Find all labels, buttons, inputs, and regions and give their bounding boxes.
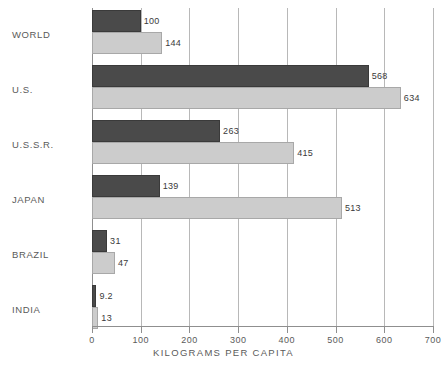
gridline-700 xyxy=(433,8,434,326)
tick-label-700: 700 xyxy=(425,335,442,345)
tick-label-200: 200 xyxy=(181,335,198,345)
gridline-300 xyxy=(238,8,239,326)
bar-value-label: 31 xyxy=(110,237,121,246)
bar-value-label: 47 xyxy=(118,259,129,268)
category-label-world: WORLD xyxy=(12,29,88,40)
bar-value-label: 100 xyxy=(144,17,160,26)
gridline-600 xyxy=(384,8,385,326)
bar-value-label: 139 xyxy=(163,182,179,191)
gridline-500 xyxy=(336,8,337,326)
bar-u-s-light xyxy=(92,87,401,109)
bar-japan-light xyxy=(92,197,342,219)
tick-label-500: 500 xyxy=(327,335,344,345)
gridline-100 xyxy=(141,8,142,326)
tick-label-400: 400 xyxy=(279,335,296,345)
tick-mark-500 xyxy=(336,327,337,333)
bar-india-dark xyxy=(92,285,96,307)
bar-value-label: 144 xyxy=(165,39,181,48)
bar-u-s-s-r-light xyxy=(92,142,294,164)
category-label-ussr: U.S.S.R. xyxy=(12,139,88,150)
bar-brazil-dark xyxy=(92,230,107,252)
bar-brazil-light xyxy=(92,252,115,274)
gridline-200 xyxy=(189,8,190,326)
gridline-0 xyxy=(92,8,93,326)
tick-mark-100 xyxy=(141,327,142,333)
category-label-india: INDIA xyxy=(12,304,88,315)
gridline-400 xyxy=(287,8,288,326)
tick-label-100: 100 xyxy=(132,335,149,345)
bar-world-dark xyxy=(92,10,141,32)
bar-value-label: 568 xyxy=(372,72,388,81)
tick-label-600: 600 xyxy=(376,335,393,345)
bar-value-label: 513 xyxy=(345,204,361,213)
category-label-japan: JAPAN xyxy=(12,194,88,205)
tick-label-0: 0 xyxy=(89,335,95,345)
tick-mark-300 xyxy=(238,327,239,333)
tick-mark-700 xyxy=(433,327,434,333)
tick-mark-400 xyxy=(287,327,288,333)
bar-value-label: 13 xyxy=(101,314,112,323)
bar-japan-dark xyxy=(92,175,160,197)
tick-label-300: 300 xyxy=(230,335,247,345)
bar-value-label: 263 xyxy=(223,127,239,136)
category-label-us: U.S. xyxy=(12,84,88,95)
tick-mark-0 xyxy=(92,327,93,333)
bar-world-light xyxy=(92,32,162,54)
bar-value-label: 634 xyxy=(404,94,420,103)
bar-value-label: 9.2 xyxy=(99,292,112,301)
category-label-brazil: BRAZIL xyxy=(12,249,88,260)
tick-mark-200 xyxy=(189,327,190,333)
bar-chart: WORLD U.S. U.S.S.R. JAPAN BRAZIL INDIA 1… xyxy=(0,0,447,368)
bar-u-s-s-r-dark xyxy=(92,120,220,142)
x-axis-title: KILOGRAMS PER CAPITA xyxy=(0,347,447,358)
x-axis-line xyxy=(92,326,434,327)
bar-u-s-dark xyxy=(92,65,369,87)
plot-area: 10014456863426341513951331479.213 xyxy=(92,8,433,326)
tick-mark-600 xyxy=(384,327,385,333)
bar-value-label: 415 xyxy=(297,149,313,158)
